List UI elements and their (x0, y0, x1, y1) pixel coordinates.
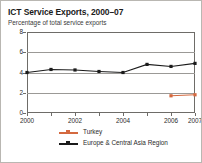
x-tickmark (123, 113, 124, 116)
y-tickmark (23, 93, 26, 94)
series-marker (145, 63, 148, 66)
y-tick-label: 0 (3, 109, 23, 116)
y-tick-label: 8 (3, 28, 23, 35)
x-tick-label: 2002 (68, 117, 82, 124)
x-tick-label: 2004 (116, 117, 130, 124)
legend-item-turkey: Turkey (1, 128, 202, 139)
y-axis-labels: 02468 (1, 32, 23, 113)
legend-label: Europe & Central Asia Region (83, 139, 168, 146)
data-series-layer (27, 32, 195, 113)
x-tickmark (195, 113, 196, 116)
y-tickmark (23, 52, 26, 53)
legend-item-europe-central-asia: Europe & Central Asia Region (1, 139, 202, 150)
x-axis-labels: 20002002200420062007 (1, 117, 202, 127)
chart-title: ICT Service Exports, 2000–07 (8, 7, 123, 17)
x-tick-label: 2000 (20, 117, 34, 124)
series-marker (193, 62, 196, 65)
y-tickmark (23, 32, 26, 33)
series-marker (169, 65, 172, 68)
chart-figure: ICT Service Exports, 2000–07 Percentage … (0, 0, 202, 163)
x-tickmark (75, 113, 76, 116)
x-tick-label: 2007 (188, 117, 202, 124)
x-tickmark (99, 113, 100, 116)
series-marker (49, 68, 52, 71)
x-tick-label: 2006 (164, 117, 178, 124)
series-marker (73, 68, 76, 71)
chart-legend: Turkey Europe & Central Asia Region (1, 128, 202, 150)
x-tickmark (147, 113, 148, 116)
series-marker (193, 93, 196, 96)
legend-marker-square (66, 141, 70, 145)
x-tickmark (51, 113, 52, 116)
series-line (171, 95, 195, 96)
legend-marker-square (66, 130, 70, 134)
series-marker (97, 70, 100, 73)
series-marker (121, 71, 124, 74)
series-marker (25, 71, 28, 74)
series-marker (169, 94, 172, 97)
x-tickmark (171, 113, 172, 116)
y-tick-label: 2 (3, 89, 23, 96)
y-tick-label: 4 (3, 69, 23, 76)
chart-subtitle: Percentage of total service exports (8, 19, 106, 26)
y-tick-label: 6 (3, 48, 23, 55)
x-tickmark (27, 113, 28, 116)
legend-label: Turkey (83, 128, 102, 135)
y-tickmark (23, 113, 26, 114)
